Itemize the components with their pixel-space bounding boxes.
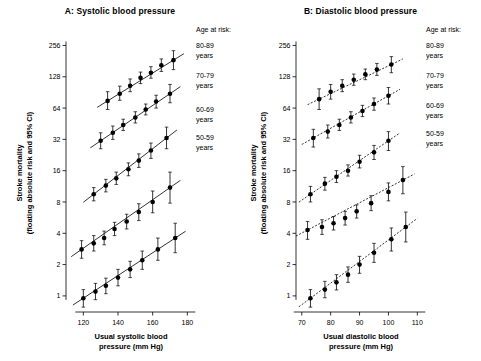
data-point (389, 62, 394, 67)
data-point (173, 236, 178, 241)
series-label-units: years (196, 144, 214, 152)
y-tick-label: 128 (49, 73, 61, 80)
series-label: 50-59 (196, 134, 214, 141)
series-label: 50-59 (426, 130, 444, 137)
y-tick-label: 1 (57, 292, 61, 299)
y-tick-label: 64 (53, 105, 61, 112)
data-point (126, 167, 131, 172)
data-point (138, 76, 143, 81)
data-point (164, 136, 169, 141)
data-point (114, 176, 119, 181)
y-tick-label: 1 (287, 292, 291, 299)
y-tick-label: 256 (49, 42, 61, 49)
data-point (346, 168, 351, 173)
data-point (331, 221, 336, 226)
x-tick-label: 100 (383, 319, 395, 326)
data-point (154, 99, 159, 104)
chart-diastolic: 1248163264128256708090100110Stroke morta… (240, 0, 481, 361)
data-point (372, 150, 377, 155)
series-label-units: years (196, 116, 214, 124)
data-point (305, 228, 310, 233)
x-tick-label: 90 (356, 319, 364, 326)
data-point (133, 115, 138, 120)
y-axis-label-line1: Stroke mortality (15, 144, 24, 202)
data-point (386, 139, 391, 144)
data-point (128, 267, 133, 272)
x-tick-label: 80 (327, 319, 335, 326)
data-point (91, 192, 96, 197)
x-axis-label-line1: Usual systolic blood (95, 332, 168, 341)
data-point (328, 89, 333, 94)
data-point (372, 102, 377, 107)
data-point (117, 91, 122, 96)
data-point (121, 123, 126, 128)
x-axis-label-line2: pressure (mm Hg) (99, 342, 164, 351)
y-tick-label: 32 (53, 136, 61, 143)
data-point (149, 148, 154, 153)
y-axis-label-line2: (floating absolute risk and 95% CI) (259, 111, 268, 234)
chart-systolic: 1248163264128256120140160180Stroke morta… (0, 0, 240, 361)
data-point (349, 115, 354, 120)
y-tick-label: 2 (287, 261, 291, 268)
data-point (334, 174, 339, 179)
data-point (104, 284, 109, 289)
data-point (386, 190, 391, 195)
y-tick-label: 64 (283, 105, 291, 112)
data-point (369, 201, 374, 206)
data-point (386, 93, 391, 98)
data-point (102, 236, 107, 241)
x-tick-label: 180 (181, 319, 193, 326)
x-axis-label-line2: pressure (mm Hg) (329, 342, 394, 351)
data-point (116, 275, 121, 280)
data-point (149, 70, 154, 75)
age-at-risk-header: Age at risk: (426, 26, 461, 34)
data-point (156, 247, 161, 252)
data-point (104, 183, 109, 188)
data-point (159, 63, 164, 68)
panel-systolic: A: Systolic blood pressure 1248163264128… (0, 0, 240, 361)
y-axis-label-line2: (floating absolute risk and 95% CI) (25, 111, 34, 234)
data-point (325, 129, 330, 134)
data-point (337, 123, 342, 128)
y-tick-label: 16 (53, 167, 61, 174)
data-point (334, 280, 339, 285)
data-point (323, 287, 328, 292)
data-point (93, 289, 98, 294)
data-point (308, 296, 313, 301)
y-tick-label: 32 (283, 136, 291, 143)
data-point (317, 97, 322, 102)
data-point (401, 178, 406, 183)
data-point (320, 225, 325, 230)
y-tick-label: 8 (287, 199, 291, 206)
data-point (357, 159, 362, 164)
data-point (372, 250, 377, 255)
y-tick-label: 256 (279, 42, 291, 49)
data-point (150, 200, 155, 205)
data-point (168, 185, 173, 190)
data-point (351, 77, 356, 82)
data-point (79, 247, 84, 252)
x-tick-label: 110 (412, 319, 423, 326)
data-point (357, 262, 362, 267)
y-tick-label: 4 (287, 230, 291, 237)
panel-diastolic: B: Diastolic blood pressure 124816326412… (240, 0, 481, 361)
data-point (168, 91, 173, 96)
data-point (124, 219, 129, 224)
series-label-units: years (196, 82, 214, 90)
series-label-units: years (196, 52, 214, 60)
series-label-units: years (426, 82, 444, 90)
data-point (91, 241, 96, 246)
y-tick-label: 128 (279, 73, 291, 80)
series-label: 60-69 (426, 102, 444, 109)
y-tick-label: 2 (57, 261, 61, 268)
data-point (346, 272, 351, 277)
data-point (375, 67, 380, 72)
series-label: 80-89 (196, 42, 214, 49)
data-point (137, 210, 142, 215)
series-label-units: years (426, 52, 444, 60)
data-point (389, 237, 394, 242)
data-point (308, 192, 313, 197)
y-axis-label-line1: Stroke mortality (249, 144, 258, 202)
data-point (140, 258, 145, 263)
y-tick-label: 4 (57, 230, 61, 237)
